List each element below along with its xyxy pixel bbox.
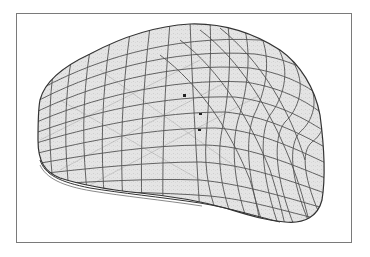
surface-speck <box>183 94 186 97</box>
wireframe-mesh-figure <box>0 0 370 257</box>
